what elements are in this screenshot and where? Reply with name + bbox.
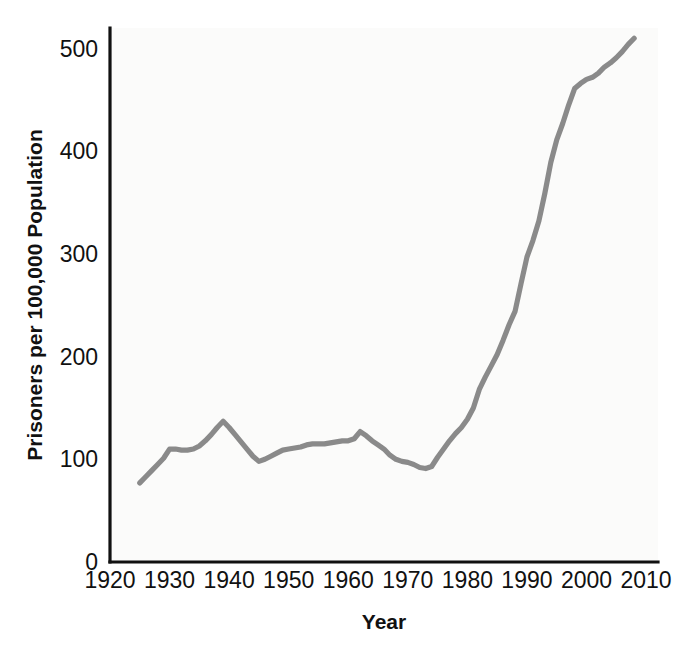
line-chart: 0100200300400500 19201930194019501960197… (0, 0, 675, 653)
y-tick-label: 100 (60, 446, 98, 472)
x-tick-label: 1940 (204, 567, 255, 593)
x-tick-label: 1990 (501, 567, 552, 593)
chart-figure: 0100200300400500 19201930194019501960197… (0, 0, 675, 653)
y-tick-label: 500 (60, 36, 98, 62)
y-axis-title: Prisoners per 100,000 Population (23, 129, 46, 460)
y-tick-label: 300 (60, 241, 98, 267)
x-tick-label: 1970 (382, 567, 433, 593)
x-tick-label: 1920 (84, 567, 135, 593)
x-tick-label: 2000 (561, 567, 612, 593)
x-axis-title: Year (362, 610, 406, 633)
x-tick-label: 1980 (442, 567, 493, 593)
x-tick-label: 1930 (144, 567, 195, 593)
x-tick-label: 1950 (263, 567, 314, 593)
y-axis-tick-labels: 0100200300400500 (60, 36, 98, 575)
x-tick-label: 1960 (323, 567, 374, 593)
x-tick-label: 2010 (621, 567, 672, 593)
y-tick-label: 400 (60, 138, 98, 164)
x-axis-tick-labels: 1920193019401950196019701980199020002010 (84, 567, 671, 593)
plot-area-background (111, 28, 658, 562)
y-tick-label: 200 (60, 344, 98, 370)
